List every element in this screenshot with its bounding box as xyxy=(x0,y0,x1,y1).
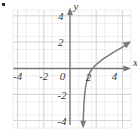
y-tick-label-4: 4 xyxy=(58,10,64,22)
x-axis-arrowhead xyxy=(124,66,132,72)
y-tick-label-2: 2 xyxy=(58,36,64,48)
x-tick-label-0: 0 xyxy=(60,70,66,82)
y-tick-label--2: -2 xyxy=(57,89,67,101)
y-tick-label--4: -4 xyxy=(57,115,67,127)
x-axis-label: x xyxy=(132,56,137,68)
x-tick-label-2: 2 xyxy=(86,71,92,83)
y-axis-arrowhead xyxy=(67,8,73,16)
x-tick-label--4: -4 xyxy=(13,70,23,82)
corner-mark-dot xyxy=(2,3,5,6)
graph-figure: -4 -2 0 2 4 4 2 -2 -4 y x xyxy=(0,0,137,134)
curve-lower-arrowhead xyxy=(80,121,86,129)
x-tick-label-4: 4 xyxy=(112,70,118,82)
x-tick-label--2: -2 xyxy=(39,70,49,82)
y-axis-label: y xyxy=(73,0,79,12)
curve-upper-arrowhead xyxy=(122,42,131,49)
axis-lines xyxy=(14,12,127,125)
coordinate-plane-svg: -4 -2 0 2 4 4 2 -2 -4 y x xyxy=(0,0,137,134)
log-curve xyxy=(83,46,124,122)
